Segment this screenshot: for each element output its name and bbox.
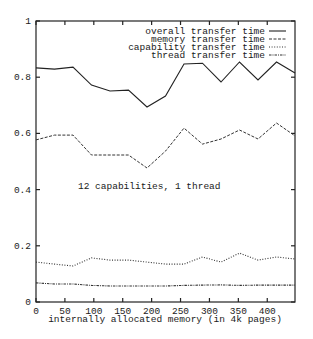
series-line [36,123,295,168]
y-tick-label: 0.2 [14,241,31,252]
y-tick-label: 0.4 [14,185,31,196]
y-tick-label: 0.6 [14,128,31,139]
x-axis-label: internally allocated memory (in 4k pages… [48,314,282,325]
data-lines [36,62,295,286]
plot-frame [36,21,295,302]
series-line [36,283,295,286]
chart-annotation: 12 capabilities, 1 thread [78,181,221,192]
legend-label: thread transfer time [151,50,265,61]
plot-axes: 05010015020025030035040000.20.40.60.81 [14,16,295,317]
line-chart: 05010015020025030035040000.20.40.60.81 o… [0,0,313,339]
series-line [36,253,295,266]
y-tick-label: 0.8 [14,72,31,83]
series-line [36,62,295,107]
y-tick-label: 0 [25,297,31,308]
y-tick-label: 1 [25,16,31,27]
legend: overall transfer timememory transfer tim… [128,26,286,61]
x-tick-label: 0 [33,306,39,317]
